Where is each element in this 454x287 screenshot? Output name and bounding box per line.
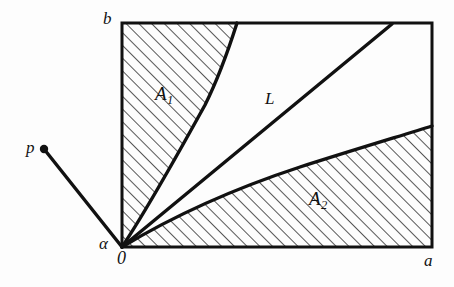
region-label-a1: A1 bbox=[155, 84, 173, 103]
line-label-l: L bbox=[265, 90, 274, 107]
figure-container: b a 0 α p L A1 A2 bbox=[0, 0, 454, 287]
origin-label: 0 bbox=[117, 249, 126, 267]
point-label-p: p bbox=[26, 139, 35, 156]
region-label-a1-base: A bbox=[155, 83, 167, 104]
region-label-a2: A2 bbox=[309, 189, 327, 208]
region-label-a2-base: A bbox=[309, 188, 321, 209]
angle-label-alpha: α bbox=[99, 235, 108, 252]
axis-label-b: b bbox=[103, 10, 112, 27]
region-label-a2-sub: 2 bbox=[321, 198, 327, 212]
axis-label-a: a bbox=[424, 252, 433, 269]
region-diagram-svg bbox=[0, 0, 454, 287]
point-p-marker bbox=[40, 145, 48, 153]
region-label-a1-sub: 1 bbox=[167, 93, 173, 107]
